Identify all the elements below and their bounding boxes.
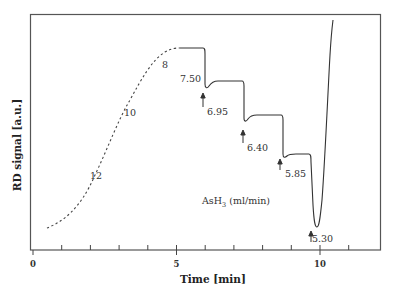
dashed-curve <box>47 48 180 228</box>
x-tick-0: 0 <box>30 259 36 269</box>
annotation-12: 12 <box>90 170 102 181</box>
annotation-8: 8 <box>162 59 168 70</box>
x-tick-10: 10 <box>314 259 326 269</box>
annotation-10: 10 <box>124 107 136 118</box>
annotation-6-40: 6.40 <box>247 142 268 153</box>
chart: 0 5 10 Time [min] RD signal [a.u.] 12 10… <box>0 0 393 294</box>
annotation-5-30: 5.30 <box>312 233 333 244</box>
annotation-5-85: 5.85 <box>285 168 306 179</box>
plot-frame <box>31 15 381 251</box>
x-axis-title: Time [min] <box>180 273 246 285</box>
y-axis-title: RD signal [a.u.] <box>11 99 23 192</box>
flow-unit-label: AsH3 (ml/min) <box>201 195 270 209</box>
annotation-6-95: 6.95 <box>207 106 228 117</box>
annotation-7-50: 7.50 <box>180 73 201 84</box>
x-tick-5: 5 <box>174 259 180 269</box>
